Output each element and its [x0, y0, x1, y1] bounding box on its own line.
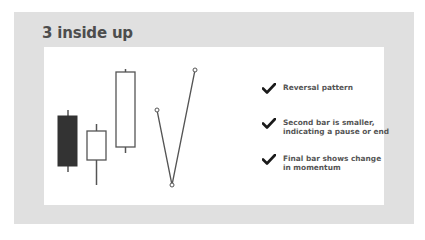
- v-trend-line: [155, 68, 197, 187]
- candle-bearish: [58, 110, 77, 172]
- bullet-text: Reversal pattern: [283, 83, 393, 92]
- checkmark-icon: [262, 154, 276, 165]
- bullet-text: Final bar shows change in momentum: [283, 154, 393, 172]
- candle-confirm-bullish: [116, 69, 135, 153]
- bullet-text: Second bar is smaller, indicating a paus…: [283, 118, 393, 136]
- bullet-item: Final bar shows change in momentum: [262, 154, 393, 172]
- bullet-item: Second bar is smaller, indicating a paus…: [262, 118, 393, 136]
- checkmark-icon: [262, 83, 276, 94]
- checkmark-icon: [262, 118, 276, 129]
- candle-inside-bullish: [87, 124, 106, 185]
- bullet-item: Reversal pattern: [262, 83, 393, 94]
